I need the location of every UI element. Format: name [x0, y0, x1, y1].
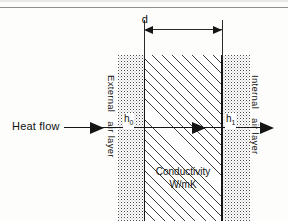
internal-air-layer-label-line2: air layer [250, 118, 261, 155]
heat-flow-arrowhead-icon [192, 122, 206, 134]
wall-boundary-line-right [221, 55, 223, 221]
heat-flow-arrowhead-icon [90, 122, 104, 134]
internal-air-layer-label: Internalair layer [250, 75, 261, 155]
h0-subscript: 0 [130, 119, 134, 126]
dimension-label-text: d [142, 13, 148, 25]
wall-core-hatching [144, 55, 222, 221]
page-edge-shadow [0, 0, 288, 2]
h1-subscript: 1 [232, 119, 236, 126]
dimension-label: d [0, 13, 288, 25]
conductivity-caption-line1: Conductivity [144, 165, 222, 178]
wall-boundary-line-left [144, 55, 146, 221]
dimension-extension-line-right [222, 20, 223, 60]
internal-air-layer-band [222, 55, 250, 221]
heat-transfer-diagram: d Heat flow Externalair layer Internalai… [0, 0, 288, 221]
conductivity-caption: Conductivity W/mK [144, 165, 222, 191]
external-surface-coefficient-label: h0 [123, 113, 134, 129]
external-air-layer-label: Externalair layer [106, 75, 117, 158]
internal-surface-coefficient-label: h1 [225, 113, 236, 129]
heat-flow-label: Heat flow [12, 120, 60, 132]
external-air-layer-label-line2: air layer [106, 121, 117, 158]
dimension-arrowhead-left-icon [144, 26, 153, 34]
conductivity-caption-line2: W/mK [144, 178, 222, 191]
internal-air-layer-label-line1: Internal [250, 75, 261, 109]
external-air-layer-band [118, 55, 144, 221]
top-horizontal-rule [0, 7, 288, 8]
dimension-line [146, 29, 222, 30]
heat-flow-arrowhead-icon [260, 122, 274, 134]
dimension-arrowhead-right-icon [213, 26, 222, 34]
external-air-layer-label-line1: External [106, 75, 117, 112]
wall-cross-section [118, 55, 250, 221]
